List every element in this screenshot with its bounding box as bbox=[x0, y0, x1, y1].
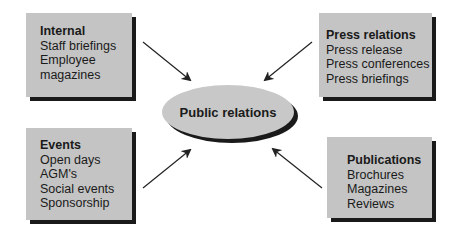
arrow-press-to-center bbox=[265, 42, 312, 80]
arrow-publications-to-center bbox=[273, 149, 322, 188]
center-label: Public relations bbox=[180, 105, 277, 120]
press-relations-box: Press relations Press release Press conf… bbox=[319, 13, 432, 97]
internal-item: Employee bbox=[40, 53, 132, 68]
publications-item: Reviews bbox=[347, 197, 432, 212]
publications-title: Publications bbox=[347, 153, 432, 168]
events-item: AGM's bbox=[40, 167, 132, 182]
events-box: Events Open days AGM's Social events Spo… bbox=[26, 128, 132, 220]
press-item: Press release bbox=[326, 43, 432, 58]
events-title: Events bbox=[40, 138, 132, 153]
internal-item: Staff briefings bbox=[40, 39, 132, 54]
public-relations-ellipse: Public relations bbox=[162, 85, 294, 139]
press-item: Press conferences bbox=[326, 57, 432, 72]
publications-item: Brochures bbox=[347, 168, 432, 183]
events-item: Open days bbox=[40, 153, 132, 168]
internal-title: Internal bbox=[40, 24, 132, 39]
internal-box: Internal Staff briefings Employee magazi… bbox=[26, 13, 132, 97]
press-title: Press relations bbox=[326, 28, 432, 43]
events-item: Sponsorship bbox=[40, 196, 132, 211]
arrow-internal-to-center bbox=[143, 42, 190, 80]
press-item: Press briefings bbox=[326, 72, 432, 87]
events-item: Social events bbox=[40, 182, 132, 197]
internal-item: magazines bbox=[40, 68, 132, 83]
publications-item: Magazines bbox=[347, 182, 432, 197]
arrow-events-to-center bbox=[143, 150, 190, 188]
publications-box: Publications Brochures Magazines Reviews bbox=[327, 137, 432, 218]
